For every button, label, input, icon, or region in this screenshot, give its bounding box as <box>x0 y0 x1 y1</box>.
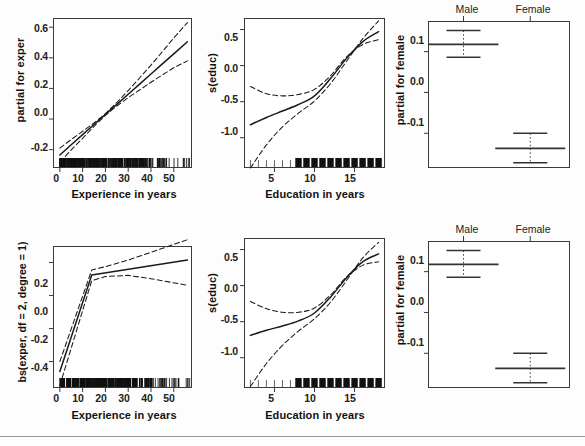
y-axis-title: partial for female <box>394 240 406 360</box>
figure-canvas: 0.6 0.4 0.2 0.0 -0.2 0 10 20 30 40 50 pa… <box>0 0 585 446</box>
category-label-male: Male <box>437 223 497 235</box>
category-label-female: Female <box>500 223 566 235</box>
plot-errorbars-gender-bottom <box>0 0 585 446</box>
page-separator-rule <box>0 436 585 437</box>
